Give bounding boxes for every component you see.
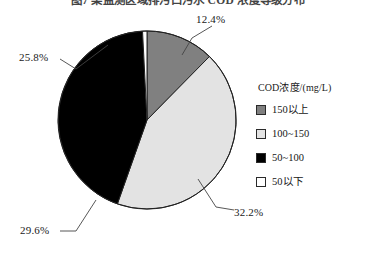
legend-item-50-and-below[interactable]: 50以下 [256, 175, 374, 188]
legend-items: 150以上 100~150 50~100 50以下 [256, 103, 374, 188]
pie-data-label-100-to-150: 32.2% [234, 206, 263, 218]
leader-line-29 [60, 200, 96, 231]
legend-swatch-100-to-150 [256, 129, 266, 139]
legend-label-50-to-100: 50~100 [272, 152, 304, 163]
legend-swatch-150-and-above [256, 105, 266, 115]
legend-label-100-to-150: 100~150 [272, 128, 309, 139]
pie-data-label-150-and-above: 12.4% [196, 13, 225, 25]
pie-data-label-50-and-below: 25.8% [19, 51, 48, 63]
legend-swatch-50-and-below [256, 177, 266, 187]
legend-swatch-50-to-100 [256, 153, 266, 163]
legend-item-100-to-150[interactable]: 100~150 [256, 127, 374, 140]
figure-root: 图7 某监测区域排污口污水 COD 浓度等级分布 12.4% 32.2% 2 [0, 0, 376, 265]
pie-data-label-50-to-100: 29.6% [20, 224, 49, 236]
legend-item-50-to-100[interactable]: 50~100 [256, 151, 374, 164]
legend: COD浓度/(mg/L) 150以上 100~150 50~100 50以下 [256, 79, 374, 188]
legend-title: COD浓度/(mg/L) [256, 79, 374, 94]
legend-item-150-and-above[interactable]: 150以上 [256, 103, 374, 116]
legend-label-150-and-above: 150以上 [272, 104, 308, 115]
legend-label-50-and-below: 50以下 [272, 176, 303, 187]
